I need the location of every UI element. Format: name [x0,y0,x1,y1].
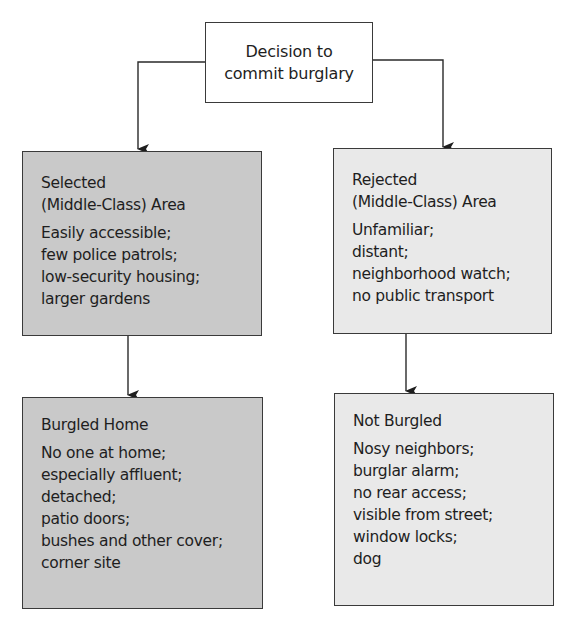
edge-root-to-rejected [373,60,443,147]
list-item: detached; [41,486,262,508]
list-item: few police patrols; [41,244,261,266]
list-item: neighborhood watch; [352,263,551,285]
list-item: distant; [352,241,551,263]
node-burgled-home: Burgled Home No one at home; especially … [22,397,263,609]
node-title: Selected (Middle-Class) Area [41,172,261,216]
list-item: especially affluent; [41,464,262,486]
node-selected-area: Selected (Middle-Class) Area Easily acce… [22,151,262,336]
title-line: Rejected [352,169,551,191]
node-title: Not Burgled [353,410,553,432]
list-item: patio doors; [41,508,262,530]
list-item: Nosy neighbors; [353,438,553,460]
list-item: no rear access; [353,482,553,504]
list-item: visible from street; [353,504,553,526]
node-label-line: Decision to [245,41,332,63]
node-rejected-area: Rejected (Middle-Class) Area Unfamiliar;… [333,148,552,334]
list-item: burglar alarm; [353,460,553,482]
list-item: bushes and other cover; [41,530,262,552]
node-label-line: commit burglary [224,63,354,85]
edge-root-to-selected [138,62,205,149]
node-title: Rejected (Middle-Class) Area [352,169,551,213]
title-line: Selected [41,172,261,194]
list-item: larger gardens [41,288,261,310]
list-item: corner site [41,552,262,574]
list-item: dog [353,548,553,570]
list-item: window locks; [353,526,553,548]
node-not-burgled: Not Burgled Nosy neighbors; burglar alar… [334,393,554,606]
list-item: Easily accessible; [41,222,261,244]
node-decision-to-commit-burglary: Decision to commit burglary [205,22,373,103]
list-item: Unfamiliar; [352,219,551,241]
title-line: (Middle-Class) Area [352,191,551,213]
list-item: low-security housing; [41,266,261,288]
list-item: no public transport [352,285,551,307]
list-item: No one at home; [41,442,262,464]
node-title: Burgled Home [41,414,262,436]
title-line: (Middle-Class) Area [41,194,261,216]
